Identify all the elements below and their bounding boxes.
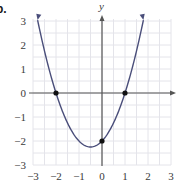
y-tick-label: 2: [21, 39, 27, 51]
y-tick-label: 3: [21, 15, 27, 27]
marked-point: [53, 90, 58, 95]
marked-point: [99, 138, 104, 143]
x-tick-label: −3: [27, 170, 39, 182]
x-tick-label: −1: [73, 170, 85, 182]
x-tick-label: 2: [145, 170, 151, 182]
tick-labels: −3−2−10123−3−2−10123: [14, 15, 174, 182]
y-axis-label: y: [98, 0, 104, 12]
marked-point: [122, 90, 127, 95]
graph: b. −3−2−10123−3−2−10123 y: [0, 0, 181, 183]
x-tick-label: 3: [168, 170, 174, 182]
y-tick-label: −2: [14, 135, 26, 147]
x-tick-label: 1: [122, 170, 128, 182]
x-tick-label: 0: [99, 170, 105, 182]
y-tick-label: 1: [21, 63, 27, 75]
y-tick-label: 0: [21, 87, 27, 99]
y-tick-label: −3: [14, 159, 26, 171]
y-tick-label: −1: [14, 111, 26, 123]
x-tick-label: −2: [50, 170, 62, 182]
part-label: b.: [0, 2, 7, 16]
